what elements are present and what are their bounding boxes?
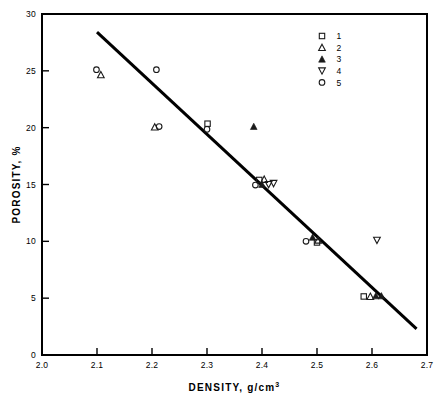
- y-tick-label: 25: [26, 66, 36, 76]
- legend-item-label: 4: [336, 66, 341, 76]
- marker-open-circle: [204, 127, 210, 133]
- x-tick-label: 2.0: [36, 360, 49, 370]
- marker-open-circle: [94, 67, 100, 73]
- x-axis-title: DENSITY, g/cm3: [189, 381, 281, 393]
- marker-open-circle: [253, 182, 259, 188]
- legend-item-4[interactable]: 4: [319, 66, 342, 76]
- y-tick-label: 5: [31, 293, 36, 303]
- y-tick-label: 10: [26, 236, 36, 246]
- marker-open-circle: [319, 80, 325, 86]
- x-axis-title-superscript: 3: [275, 381, 280, 388]
- legend-item-3[interactable]: 3: [319, 54, 342, 64]
- legend-item-label: 5: [336, 78, 341, 88]
- legend-item-1[interactable]: 1: [319, 31, 341, 41]
- series-1: [205, 121, 367, 299]
- series-3: [250, 123, 384, 299]
- marker-filled-triangle-up: [319, 56, 326, 62]
- series-4: [265, 180, 380, 243]
- series-2: [98, 71, 374, 299]
- marker-open-triangle-down: [319, 68, 326, 74]
- marker-open-triangle-down: [374, 237, 381, 243]
- marker-open-square: [205, 121, 210, 126]
- marker-open-triangle-up: [319, 44, 326, 50]
- y-tick-label: 15: [26, 180, 36, 190]
- plot-frame: [42, 14, 427, 355]
- legend-item-label: 1: [336, 31, 341, 41]
- x-tick-label: 2.4: [256, 360, 269, 370]
- series-5: [94, 67, 309, 244]
- y-tick-label: 20: [26, 123, 36, 133]
- x-tick-label: 2.1: [91, 360, 104, 370]
- y-tick-label: 30: [26, 9, 36, 19]
- marker-open-circle: [154, 67, 160, 73]
- marker-filled-triangle-up: [250, 123, 257, 129]
- marker-open-square: [319, 33, 324, 38]
- marker-open-triangle-up: [98, 71, 105, 77]
- x-tick-label: 2.7: [421, 360, 434, 370]
- marker-open-circle: [156, 124, 162, 130]
- legend-item-2[interactable]: 2: [319, 43, 342, 53]
- marker-open-square: [361, 294, 366, 299]
- legend-item-label: 2: [336, 43, 341, 53]
- legend: 12345: [319, 31, 342, 87]
- x-tick-label: 2.3: [201, 360, 214, 370]
- x-tick-label: 2.5: [311, 360, 324, 370]
- x-tick-label: 2.6: [366, 360, 379, 370]
- x-tick-label: 2.2: [146, 360, 159, 370]
- legend-item-5[interactable]: 5: [319, 78, 341, 88]
- y-tick-label: 0: [31, 350, 36, 360]
- legend-item-label: 3: [336, 54, 341, 64]
- marker-open-circle: [303, 239, 309, 245]
- y-axis-title: POROSITY, %: [11, 145, 22, 223]
- porosity-density-scatter-chart: 2.02.12.22.32.42.52.62.7051015202530PORO…: [0, 0, 443, 396]
